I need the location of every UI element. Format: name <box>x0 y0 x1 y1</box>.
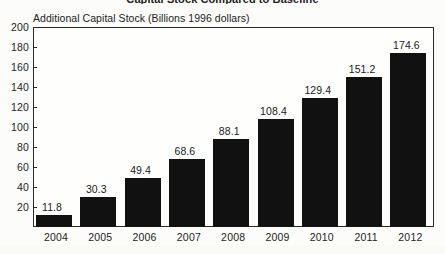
y-axis-tick-label: 180 <box>1 41 29 53</box>
x-axis-tick-label: 2012 <box>388 231 432 243</box>
x-axis-tick-label: 2010 <box>300 231 344 243</box>
bar-value-label: 11.8 <box>30 201 74 213</box>
bar-group: 49.4 <box>123 28 167 227</box>
bar-group: 108.4 <box>256 28 300 227</box>
bar-group: 11.8 <box>34 28 78 227</box>
bar <box>302 98 338 227</box>
y-axis-tick-label: 120 <box>1 101 29 113</box>
bar-value-label: 151.2 <box>340 63 384 75</box>
bar-value-label: 174.6 <box>384 39 428 51</box>
bar-value-label: 108.4 <box>252 105 296 117</box>
bar-series: 11.830.349.468.688.1108.4129.4151.2174.6 <box>34 28 433 227</box>
scan-margin <box>0 246 445 254</box>
y-axis-tick-label: 60 <box>1 161 29 173</box>
bar <box>36 215 72 227</box>
x-axis-tick-label: 2005 <box>78 231 122 243</box>
x-axis-tick-label: 2006 <box>123 231 167 243</box>
y-axis-tick-label: 80 <box>1 141 29 153</box>
bar <box>125 178 161 227</box>
x-axis-tick-label: 2009 <box>256 231 300 243</box>
x-axis-tick-label: 2007 <box>167 231 211 243</box>
x-axis-tick-label: 2004 <box>34 231 78 243</box>
bar-value-label: 49.4 <box>119 164 163 176</box>
y-axis-tick-label: 140 <box>1 81 29 93</box>
bar-group: 129.4 <box>300 28 344 227</box>
chart-title: Capital Stock Compared to Baseline <box>0 0 445 4</box>
bar <box>213 139 249 227</box>
bar-group: 174.6 <box>388 28 432 227</box>
bar <box>169 159 205 227</box>
bar-value-label: 88.1 <box>207 125 251 137</box>
y-axis-tick-label: 100 <box>1 121 29 133</box>
bar-value-label: 68.6 <box>163 145 207 157</box>
bar <box>258 119 294 227</box>
y-axis-tick-label: 160 <box>1 61 29 73</box>
y-axis-tick-label: 200 <box>1 21 29 33</box>
bar <box>80 197 116 227</box>
bar <box>390 53 426 227</box>
bar-group: 151.2 <box>344 28 388 227</box>
bar-group: 30.3 <box>78 28 122 227</box>
bar-value-label: 129.4 <box>296 84 340 96</box>
chart-figure: Capital Stock Compared to Baseline Addit… <box>0 0 445 254</box>
y-axis-tick-label: 40 <box>1 181 29 193</box>
bar-group: 88.1 <box>211 28 255 227</box>
bar-value-label: 30.3 <box>74 183 118 195</box>
y-axis-title: Additional Capital Stock (Billions 1996 … <box>33 12 250 24</box>
bar-group: 68.6 <box>167 28 211 227</box>
x-axis-tick-label: 2008 <box>211 231 255 243</box>
x-axis-tick-label: 2011 <box>344 231 388 243</box>
bar <box>346 77 382 227</box>
y-axis-tick-label: 20 <box>1 201 29 213</box>
